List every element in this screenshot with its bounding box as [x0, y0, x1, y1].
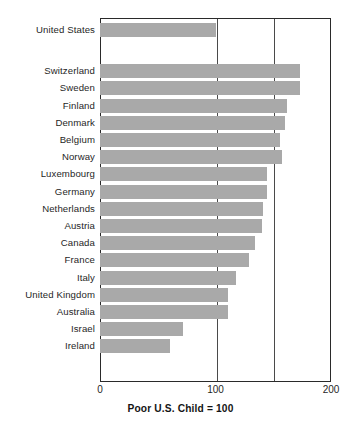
category-label: United States	[0, 25, 95, 35]
bar-norway	[100, 150, 282, 164]
bar-sweden	[100, 81, 300, 95]
category-label: Ireland	[0, 341, 95, 351]
bar-germany	[100, 185, 267, 199]
bar-belgium	[100, 133, 280, 147]
category-label: Belgium	[0, 135, 95, 145]
x-tick-label-0: 0	[97, 384, 103, 396]
category-label: Austria	[0, 221, 95, 231]
x-tick-label-200: 200	[323, 384, 340, 396]
bar-finland	[100, 99, 287, 113]
category-label: Canada	[0, 238, 95, 248]
bar-ireland	[100, 339, 170, 353]
category-label: Luxembourg	[0, 169, 95, 179]
category-label: Finland	[0, 101, 95, 111]
category-label: France	[0, 255, 95, 265]
bar-france	[100, 253, 249, 267]
bar-australia	[100, 305, 228, 319]
bar-italy	[100, 271, 236, 285]
category-label: Norway	[0, 152, 95, 162]
bar-luxembourg	[100, 167, 267, 181]
x-axis-ticks: 0 100 200	[0, 384, 361, 398]
category-label: Denmark	[0, 118, 95, 128]
bar-austria	[100, 219, 262, 233]
category-label: Australia	[0, 307, 95, 317]
bars-layer	[100, 18, 331, 382]
x-tick-label-100: 100	[207, 384, 224, 396]
category-label: Netherlands	[0, 204, 95, 214]
category-label: Germany	[0, 187, 95, 197]
bar-switzerland	[100, 64, 300, 78]
bar-chart: United StatesSwitzerlandSwedenFinlandDen…	[0, 0, 361, 438]
category-label: Switzerland	[0, 66, 95, 76]
bar-denmark	[100, 116, 285, 130]
x-axis-title: Poor U.S. Child = 100	[0, 403, 361, 414]
bar-united-kingdom	[100, 288, 228, 302]
bar-canada	[100, 236, 255, 250]
bar-united-states	[100, 23, 216, 37]
bar-israel	[100, 322, 183, 336]
bar-netherlands	[100, 202, 263, 216]
category-label: United Kingdom	[0, 290, 95, 300]
category-label: Israel	[0, 324, 95, 334]
category-label: Sweden	[0, 83, 95, 93]
category-label: Italy	[0, 273, 95, 283]
